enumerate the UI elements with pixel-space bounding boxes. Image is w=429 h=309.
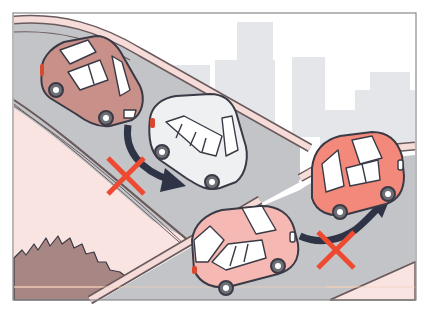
- traffic-illustration: [0, 0, 429, 309]
